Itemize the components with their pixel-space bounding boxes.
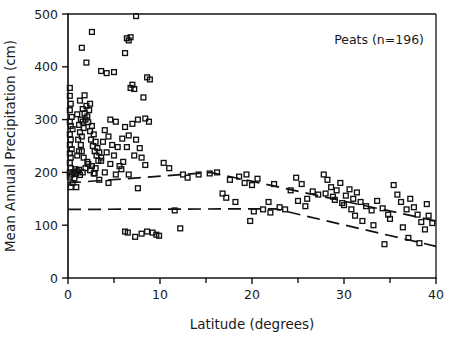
data-point (139, 155, 144, 160)
y-axis-title: Mean Annual Precipitation (cm) (2, 40, 18, 252)
data-point (84, 60, 89, 65)
data-point (268, 210, 273, 215)
y-tick-label: 500 (34, 7, 58, 22)
data-point (124, 145, 129, 150)
data-point (375, 199, 380, 204)
data-point (248, 219, 253, 224)
data-point (108, 162, 113, 167)
data-point (126, 172, 131, 177)
data-point (133, 234, 138, 239)
data-point (99, 69, 104, 74)
data-point (323, 191, 328, 196)
data-point (233, 200, 238, 205)
data-point (136, 117, 141, 122)
data-point (139, 231, 144, 236)
data-point (82, 93, 87, 98)
data-point (305, 196, 310, 201)
x-axis-title: Latitude (degrees) (190, 316, 315, 332)
y-tick-label: 200 (34, 165, 58, 180)
data-point (296, 199, 301, 204)
y-tick-label: 300 (34, 112, 58, 127)
data-point (68, 101, 73, 106)
data-point (106, 134, 111, 139)
x-tick-label: 40 (428, 287, 444, 302)
data-point (321, 172, 326, 177)
data-point (137, 146, 142, 151)
data-point (78, 98, 83, 103)
x-tick-label: 0 (64, 287, 72, 302)
data-point (120, 136, 125, 141)
data-point (310, 189, 315, 194)
data-point (417, 241, 422, 246)
data-point (112, 70, 117, 75)
data-point (78, 143, 83, 148)
data-point (395, 192, 400, 197)
data-point (161, 161, 166, 166)
data-point (115, 145, 120, 150)
data-point (404, 207, 409, 212)
data-point (134, 137, 139, 142)
data-point (412, 205, 417, 210)
data-point (123, 51, 128, 56)
x-tick-label: 30 (336, 287, 352, 302)
y-tick-label: 0 (50, 271, 58, 286)
data-point (334, 188, 339, 193)
series-annotation: Peats (n=196) (334, 32, 424, 47)
data-point (360, 219, 365, 224)
data-point (228, 177, 233, 182)
data-point (104, 150, 109, 155)
data-point (90, 30, 95, 35)
data-point (130, 121, 135, 126)
data-point (145, 229, 150, 234)
data-point (126, 133, 131, 138)
data-point (266, 200, 271, 205)
data-point (251, 209, 256, 214)
data-point (329, 185, 334, 190)
data-point (132, 153, 137, 158)
data-point (102, 128, 107, 133)
data-point (242, 181, 247, 186)
data-point (303, 204, 308, 209)
data-point (426, 213, 431, 218)
data-point (347, 187, 352, 192)
data-point (244, 172, 249, 177)
data-point (343, 193, 348, 198)
data-point (424, 202, 429, 207)
data-point (68, 137, 73, 142)
x-tick-label: 10 (152, 287, 168, 302)
data-point (400, 225, 405, 230)
data-point (255, 176, 260, 181)
data-point (113, 119, 118, 124)
data-point (399, 200, 404, 205)
data-point (250, 183, 255, 188)
data-point (338, 181, 343, 186)
chart-figure: 0100200300400500010203040 Latitude (degr… (0, 0, 465, 337)
data-point (167, 166, 172, 171)
data-point (136, 186, 141, 191)
data-point (423, 227, 428, 232)
data-point (391, 183, 396, 188)
data-point (178, 226, 183, 231)
scatter-plot: 0100200300400500010203040 Latitude (degr… (0, 0, 465, 337)
data-points-group (67, 14, 434, 247)
data-point (294, 175, 299, 180)
data-point (108, 117, 113, 122)
data-point (141, 95, 146, 100)
data-point (110, 143, 115, 148)
data-point (353, 213, 358, 218)
data-point (123, 125, 128, 130)
data-point (104, 71, 109, 76)
data-point (106, 181, 111, 186)
y-tick-label: 400 (34, 59, 58, 74)
data-point (75, 112, 80, 117)
y-tick-label: 100 (34, 218, 58, 233)
data-point (112, 153, 117, 158)
data-point (261, 207, 266, 212)
data-point (325, 177, 330, 182)
data-point (358, 200, 363, 205)
data-point (371, 223, 376, 228)
data-point (101, 139, 106, 144)
x-tick-label: 20 (244, 287, 260, 302)
data-point (283, 207, 288, 212)
data-point (143, 163, 148, 168)
